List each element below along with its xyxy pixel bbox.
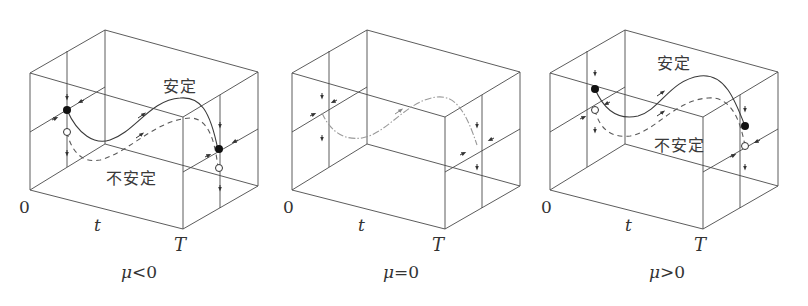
axis-T-label: T bbox=[694, 234, 706, 255]
stable-label: 安定 bbox=[657, 50, 691, 74]
box-wireframe bbox=[292, 30, 520, 229]
panel-mu-negative bbox=[30, 30, 258, 229]
caption-mu-zero: μ=0 bbox=[383, 262, 419, 282]
unstable-point-icon bbox=[742, 143, 749, 150]
axis-origin-label: 0 bbox=[541, 197, 552, 217]
axis-t-label: t bbox=[94, 215, 101, 235]
stable-point-icon bbox=[63, 106, 71, 114]
stable-label: 安定 bbox=[163, 73, 197, 97]
unstable-point-icon bbox=[64, 129, 71, 136]
unstable-point-icon bbox=[216, 165, 223, 172]
caption-mu-positive: μ>0 bbox=[649, 262, 685, 282]
unstable-label: 不安定 bbox=[654, 132, 705, 156]
stable-point-icon bbox=[591, 85, 599, 93]
axis-origin-label: 0 bbox=[19, 197, 30, 217]
flow-arrow-icon bbox=[136, 134, 142, 138]
axis-t-label: t bbox=[625, 215, 632, 235]
axis-t-label: t bbox=[358, 215, 365, 235]
axis-origin-label: 0 bbox=[283, 197, 294, 217]
caption-mu-negative: μ<0 bbox=[121, 262, 157, 282]
stable-point-icon bbox=[741, 122, 749, 130]
panel-mu-zero bbox=[292, 30, 520, 229]
axis-T-label: T bbox=[174, 234, 186, 255]
axis-T-label: T bbox=[432, 234, 444, 255]
stable-point-icon bbox=[215, 145, 223, 153]
unstable-label: 不安定 bbox=[106, 165, 157, 189]
unstable-point-icon bbox=[592, 107, 599, 114]
